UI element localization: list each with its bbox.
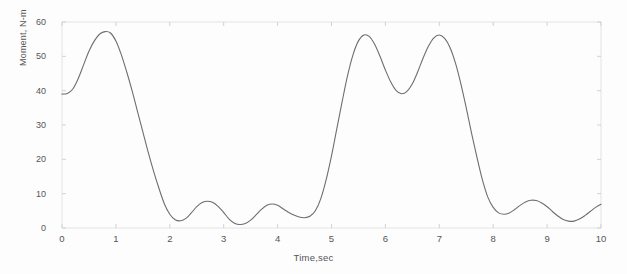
data-line-moment (62, 32, 601, 225)
plot-area (0, 0, 627, 274)
chart-figure: Moment, N-m 0102030405060 012345678910 T… (0, 0, 627, 274)
